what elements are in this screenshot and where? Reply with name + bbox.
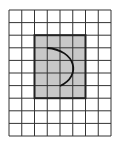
grid-diagram bbox=[0, 0, 116, 141]
